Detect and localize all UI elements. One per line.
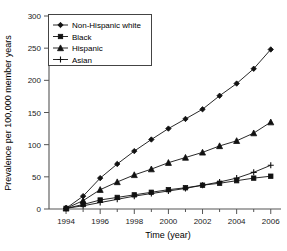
y-tick-label: 50 bbox=[32, 173, 41, 182]
y-tick-label: 250 bbox=[28, 44, 42, 53]
x-tick-label: 2006 bbox=[262, 217, 280, 226]
data-point-triangle-marker bbox=[131, 172, 137, 178]
chart-legend: Non-Hispanic whiteBlackHispanicAsian bbox=[49, 15, 152, 66]
x-tick-label: 2004 bbox=[228, 217, 246, 226]
y-tick-label: 100 bbox=[28, 141, 42, 150]
y-axis-ticks: 050100150200250300 bbox=[28, 12, 49, 214]
x-tick-label: 1998 bbox=[125, 217, 143, 226]
y-axis-title: Prevalence per 100,000 member years bbox=[3, 35, 13, 191]
data-point-plus-marker bbox=[251, 169, 257, 175]
data-point-triangle-marker bbox=[268, 119, 274, 125]
data-point-square-marker bbox=[269, 174, 273, 178]
data-point-square-marker bbox=[58, 34, 62, 38]
legend-label: Black bbox=[72, 33, 93, 42]
x-tick-label: 2000 bbox=[160, 217, 178, 226]
x-axis-ticks: 1994199619982000200220042006 bbox=[57, 209, 280, 226]
data-point-plus-marker bbox=[268, 162, 274, 168]
legend-label: Non-Hispanic white bbox=[72, 21, 141, 30]
y-tick-label: 0 bbox=[37, 205, 42, 214]
chart-figure: 050100150200250300 199419961998200020022… bbox=[0, 0, 287, 251]
series-non-hispanic-white bbox=[63, 47, 273, 211]
y-tick-label: 150 bbox=[28, 109, 42, 118]
data-point-diamond-marker bbox=[183, 116, 188, 121]
data-point-triangle-marker bbox=[148, 166, 154, 172]
legend-label: Asian bbox=[72, 56, 92, 65]
y-tick-label: 200 bbox=[28, 76, 42, 85]
x-tick-label: 2002 bbox=[194, 217, 212, 226]
data-point-triangle-marker bbox=[200, 149, 206, 155]
data-point-triangle-marker bbox=[234, 138, 240, 144]
x-tick-label: 1994 bbox=[57, 217, 75, 226]
data-point-square-marker bbox=[252, 176, 256, 180]
data-point-diamond-marker bbox=[149, 137, 154, 142]
data-point-triangle-marker bbox=[114, 179, 120, 185]
chart-plot-area: 050100150200250300 199419961998200020022… bbox=[0, 0, 287, 251]
series-hispanic bbox=[63, 119, 274, 211]
data-point-diamond-marker bbox=[166, 126, 171, 131]
series-layer bbox=[63, 47, 274, 212]
legend-label: Hispanic bbox=[72, 44, 103, 53]
series-asian bbox=[63, 162, 274, 211]
y-tick-label: 300 bbox=[28, 12, 42, 21]
data-point-triangle-marker bbox=[97, 187, 103, 193]
data-point-triangle-marker bbox=[80, 198, 86, 204]
data-point-triangle-marker bbox=[251, 130, 257, 136]
x-axis-title: Time (year) bbox=[145, 230, 191, 240]
x-tick-label: 1996 bbox=[91, 217, 109, 226]
series-line bbox=[66, 165, 271, 208]
